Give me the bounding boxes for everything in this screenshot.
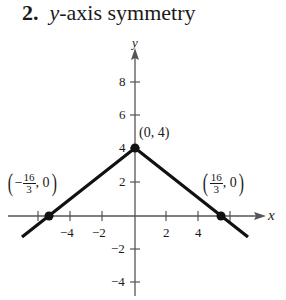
point-right — [217, 212, 226, 221]
x-tick-label: 4 — [195, 226, 202, 240]
y-tick-label: 4 — [119, 141, 126, 155]
plot-area — [0, 0, 286, 300]
fraction: 163 — [23, 172, 36, 195]
vertex-label: (0, 4) — [139, 126, 169, 140]
x-tick-label: 2 — [163, 226, 170, 240]
fraction: 163 — [210, 172, 223, 195]
y-tick-label: −2 — [111, 242, 125, 256]
x-axis-label: x — [268, 208, 275, 222]
y-tick-label: 2 — [119, 175, 126, 189]
x-tick-label: −4 — [60, 226, 74, 240]
x-tick-label: −2 — [92, 226, 106, 240]
point-vertex — [131, 144, 140, 153]
y-tick-label: 8 — [119, 75, 126, 89]
y-tick-label: −4 — [111, 275, 125, 289]
right-intercept-label: ( 163 , 0 ) — [201, 170, 245, 196]
left-intercept-label: ( − 163 , 0 ) — [6, 170, 58, 196]
y-tick-label: 6 — [119, 108, 126, 122]
y-axis-label: y — [132, 36, 138, 50]
point-left — [45, 212, 54, 221]
